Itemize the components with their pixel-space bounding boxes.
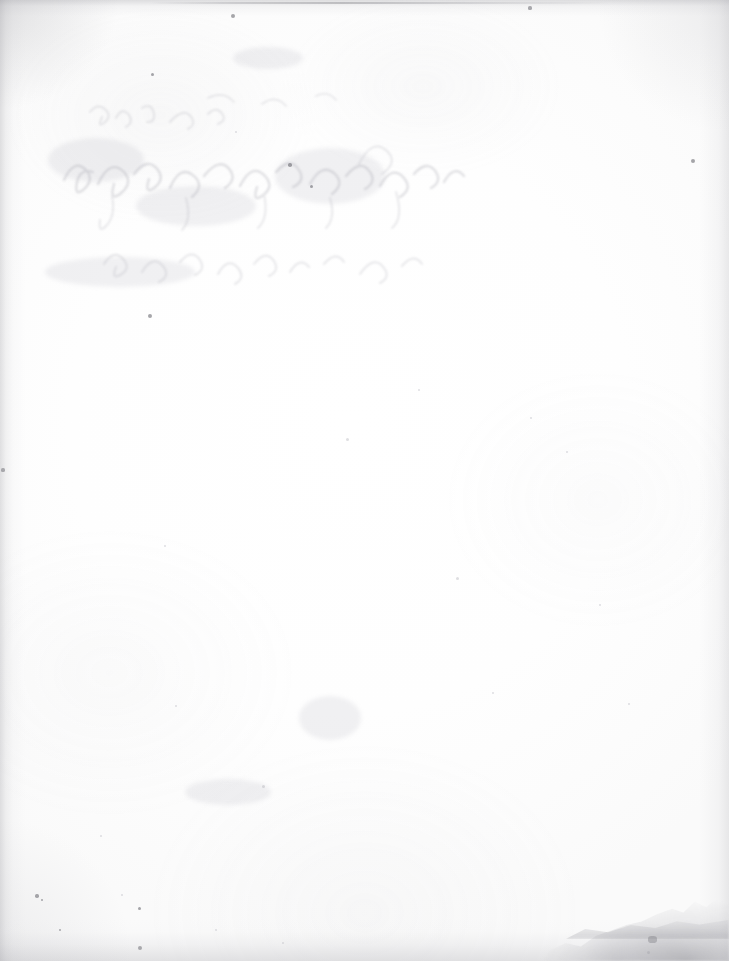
dust-speck	[288, 163, 292, 167]
torn-corner-speck	[648, 936, 657, 943]
dust-speck	[138, 907, 141, 910]
dust-speck	[262, 785, 265, 788]
paper-smudge	[299, 696, 361, 740]
top-left-corner-shadow	[0, 0, 120, 110]
dust-speck	[346, 438, 349, 441]
bottom-right-torn-corner	[539, 871, 729, 961]
paper-smudge	[185, 779, 271, 805]
right-edge-shadow	[699, 0, 729, 961]
paper-smudge	[136, 186, 256, 226]
bottom-left-corner-shadow	[0, 821, 130, 961]
torn-corner-mass	[539, 871, 729, 961]
left-edge-shadow	[0, 0, 26, 961]
dust-speck	[456, 577, 459, 580]
scanned-page	[0, 0, 729, 961]
paper-smudge	[45, 257, 195, 287]
dust-speck	[310, 185, 313, 188]
paper-smudge	[233, 47, 303, 69]
top-right-corner-shadow	[599, 0, 729, 130]
dust-speck	[151, 73, 154, 76]
paper-smudge	[275, 148, 385, 204]
top-edge-dark-line	[150, 2, 609, 4]
paper-smudge	[48, 138, 144, 182]
